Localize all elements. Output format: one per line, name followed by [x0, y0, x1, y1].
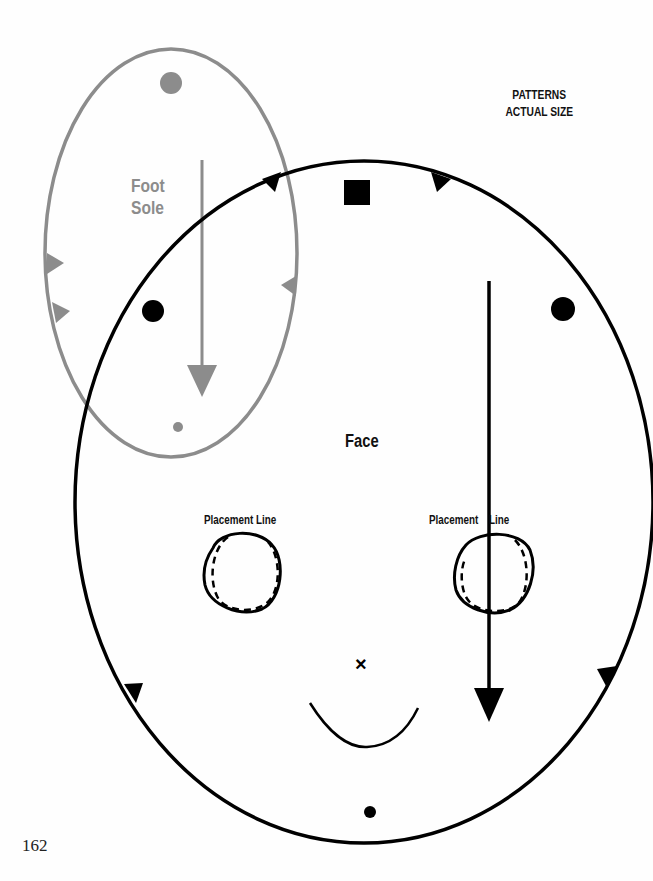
foot-notch-left-1-icon — [47, 253, 64, 274]
left-eye-placement-dashed — [213, 537, 278, 610]
foot-label-line-2: Sole — [131, 197, 165, 219]
foot-top-dot-icon — [160, 72, 182, 94]
face-dot-bottom-icon — [364, 806, 376, 818]
face-label: Face — [345, 431, 379, 452]
right-eye-placement-dashed — [462, 540, 527, 611]
pattern-page: PATTERNS ACTUAL SIZE Foot Sole Face Plac… — [0, 0, 653, 881]
face-pattern — [75, 161, 653, 843]
placement-line-right-label-b: Line — [489, 513, 509, 527]
foot-notch-right-icon — [281, 276, 296, 296]
placement-line-left-label: Placement Line — [204, 513, 276, 527]
foot-bottom-dot-icon — [173, 422, 183, 432]
page-number: 162 — [22, 836, 48, 856]
face-dot-right-icon — [551, 297, 575, 321]
foot-grain-arrow-head-icon — [187, 365, 217, 397]
face-grain-arrow-head-icon — [474, 688, 504, 722]
foot-sole-label: Foot Sole — [131, 175, 165, 219]
mouth-curve — [310, 703, 418, 747]
nose-x-mark: × — [355, 653, 367, 676]
foot-label-line-1: Foot — [131, 175, 165, 197]
foot-notch-left-2-icon — [52, 302, 70, 323]
pattern-drawing — [0, 0, 653, 881]
foot-sole-outline — [45, 49, 297, 457]
title-line-2: ACTUAL SIZE — [505, 104, 573, 121]
face-outline — [75, 161, 653, 843]
foot-sole-pattern — [45, 49, 297, 457]
title-line-1: PATTERNS — [505, 87, 573, 104]
placement-line-right-label-a: Placement — [429, 513, 478, 527]
face-dot-left-icon — [142, 300, 164, 322]
face-top-square-icon — [344, 180, 370, 205]
page-title: PATTERNS ACTUAL SIZE — [505, 87, 573, 121]
